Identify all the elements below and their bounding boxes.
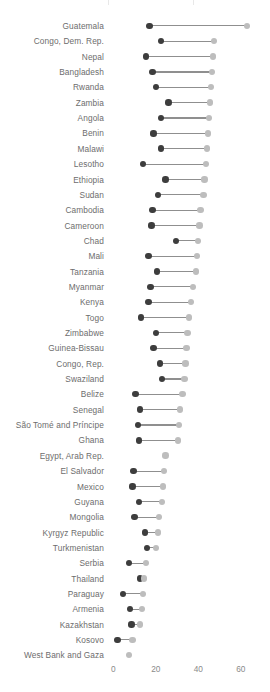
dot-start[interactable] — [140, 161, 146, 167]
dot-start[interactable] — [150, 130, 156, 136]
category-label: Benin — [0, 125, 104, 141]
dot-end[interactable] — [211, 38, 217, 44]
dot-start[interactable] — [155, 192, 161, 198]
dot-end[interactable] — [190, 284, 196, 290]
dot-start[interactable] — [120, 591, 126, 597]
dot-end[interactable] — [175, 437, 181, 443]
dot-start[interactable] — [165, 99, 171, 105]
dot-end[interactable] — [155, 529, 161, 535]
dot-end[interactable] — [205, 130, 211, 136]
dot-end[interactable] — [139, 606, 145, 612]
dot-start[interactable] — [145, 299, 151, 305]
dot-end[interactable] — [244, 23, 250, 29]
connector-line — [143, 164, 206, 165]
dot-end[interactable] — [141, 575, 147, 581]
chart-row: Guatemala — [0, 18, 270, 34]
dot-end[interactable] — [126, 652, 132, 658]
dot-end[interactable] — [200, 192, 206, 198]
dot-end[interactable] — [161, 468, 167, 474]
category-label: Turkmenistan — [0, 540, 104, 556]
dot-start[interactable] — [148, 222, 154, 228]
dot-end[interactable] — [188, 299, 194, 305]
dot-start[interactable] — [128, 621, 134, 627]
dot-start[interactable] — [142, 529, 148, 535]
category-label: Mongolia — [0, 509, 104, 525]
dot-start[interactable] — [153, 330, 159, 336]
dot-start[interactable] — [127, 606, 133, 612]
chart-row: Sudan — [0, 187, 270, 203]
chart-row: West Bank and Gaza — [0, 647, 270, 663]
dot-start[interactable] — [126, 560, 132, 566]
dot-end[interactable] — [184, 330, 190, 336]
dot-end[interactable] — [162, 452, 168, 458]
category-label: Kenya — [0, 294, 104, 310]
dot-start[interactable] — [131, 514, 137, 520]
dot-end[interactable] — [153, 545, 159, 551]
dot-end[interactable] — [156, 514, 162, 520]
dot-end[interactable] — [206, 115, 212, 121]
dot-end[interactable] — [193, 268, 199, 274]
dot-end[interactable] — [176, 422, 182, 428]
connector-line — [154, 348, 187, 349]
dot-start[interactable] — [157, 360, 163, 366]
dot-end[interactable] — [140, 591, 146, 597]
dot-start[interactable] — [149, 69, 155, 75]
dot-end[interactable] — [137, 621, 143, 627]
dot-start[interactable] — [132, 391, 138, 397]
dot-end[interactable] — [186, 314, 192, 320]
dot-end[interactable] — [201, 176, 207, 182]
chart-row: Benin — [0, 125, 270, 141]
dot-start[interactable] — [136, 437, 142, 443]
dot-end[interactable] — [196, 222, 202, 228]
connector-line — [152, 225, 200, 226]
dot-start[interactable] — [129, 483, 135, 489]
dot-end[interactable] — [181, 376, 187, 382]
category-label: Mali — [0, 248, 104, 264]
dot-start[interactable] — [135, 422, 141, 428]
dot-end[interactable] — [159, 499, 165, 505]
dot-start[interactable] — [154, 268, 160, 274]
dot-start[interactable] — [162, 176, 168, 182]
dot-end[interactable] — [209, 69, 215, 75]
chart-row: Mongolia — [0, 509, 270, 525]
dot-end[interactable] — [194, 253, 200, 259]
dot-start[interactable] — [150, 345, 156, 351]
dot-end[interactable] — [179, 391, 185, 397]
dot-start[interactable] — [143, 53, 149, 59]
dot-end[interactable] — [208, 84, 214, 90]
connector-line — [165, 179, 204, 180]
category-label: Sudan — [0, 187, 104, 203]
dot-end[interactable] — [182, 360, 188, 366]
dot-end[interactable] — [160, 483, 166, 489]
dot-end[interactable] — [143, 560, 149, 566]
dot-end[interactable] — [210, 53, 216, 59]
dot-start[interactable] — [173, 238, 179, 244]
dot-start[interactable] — [158, 115, 164, 121]
dot-end[interactable] — [197, 207, 203, 213]
dot-start[interactable] — [130, 468, 136, 474]
dot-start[interactable] — [136, 499, 142, 505]
dot-end[interactable] — [129, 637, 135, 643]
dot-start[interactable] — [158, 38, 164, 44]
category-label: Senegal — [0, 402, 104, 418]
dot-start[interactable] — [114, 637, 120, 643]
category-label: Paraguay — [0, 586, 104, 602]
dot-start[interactable] — [147, 284, 153, 290]
dot-end[interactable] — [183, 345, 189, 351]
dot-start[interactable] — [137, 406, 143, 412]
chart-row: El Salvador — [0, 463, 270, 479]
dot-start[interactable] — [144, 545, 150, 551]
dot-start[interactable] — [158, 145, 164, 151]
dot-end[interactable] — [207, 99, 213, 105]
dot-start[interactable] — [145, 253, 151, 259]
dot-end[interactable] — [204, 145, 210, 151]
dot-start[interactable] — [138, 314, 144, 320]
chart-row: Egypt, Arab Rep. — [0, 448, 270, 464]
dot-start[interactable] — [159, 376, 165, 382]
dot-start[interactable] — [153, 84, 159, 90]
dot-end[interactable] — [203, 161, 209, 167]
dot-end[interactable] — [177, 406, 183, 412]
dot-start[interactable] — [149, 207, 155, 213]
dot-end[interactable] — [195, 238, 201, 244]
dot-start[interactable] — [146, 23, 152, 29]
